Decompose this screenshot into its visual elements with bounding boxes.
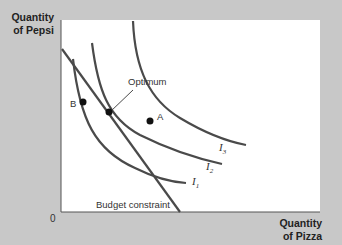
indifference-curve-diagram: Optimum B A Budget constraint I3 I2 I1: [0, 0, 342, 245]
point-optimum: [106, 109, 113, 116]
point-a-label: A: [157, 111, 164, 122]
optimum-label: Optimum: [128, 76, 167, 87]
budget-constraint-label: Budget constraint: [96, 199, 170, 210]
point-b: [80, 99, 87, 106]
point-a: [147, 118, 154, 125]
plot-area: [61, 20, 320, 212]
point-b-label: B: [70, 98, 76, 109]
